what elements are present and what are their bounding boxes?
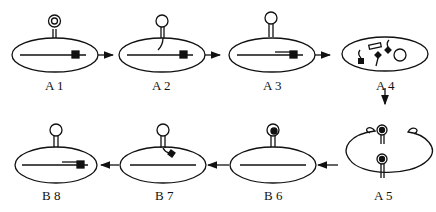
- label-a2: A 2: [152, 78, 170, 93]
- stage-b6-cell: [230, 124, 316, 183]
- stage-a1-cell: [12, 15, 98, 72]
- label-a5: A 5: [374, 188, 392, 203]
- label-a1: A 1: [45, 78, 63, 93]
- label-a3: A 3: [263, 78, 281, 93]
- stage-b7-cell: [120, 124, 206, 183]
- stage-a5-cell: [346, 125, 432, 178]
- label-b6: B 6: [264, 188, 283, 203]
- label-b8: B 8: [42, 188, 60, 203]
- stage-a3-cell: [229, 12, 315, 72]
- label-b7: B 7: [155, 188, 174, 203]
- label-a4: A 4: [376, 78, 395, 93]
- stage-b8-cell: [15, 124, 97, 183]
- stage-a4-cell: [342, 37, 428, 71]
- diagram-canvas: A 1 A 2 A 3 A 4 A 5 B 6 B 7 B 8: [0, 0, 436, 212]
- stage-a2-cell: [119, 15, 205, 72]
